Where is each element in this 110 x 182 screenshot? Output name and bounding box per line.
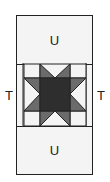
left-side-label: T — [5, 88, 13, 103]
star-center — [40, 78, 70, 111]
star-block — [0, 0, 110, 182]
right-side-label: T — [97, 88, 105, 103]
